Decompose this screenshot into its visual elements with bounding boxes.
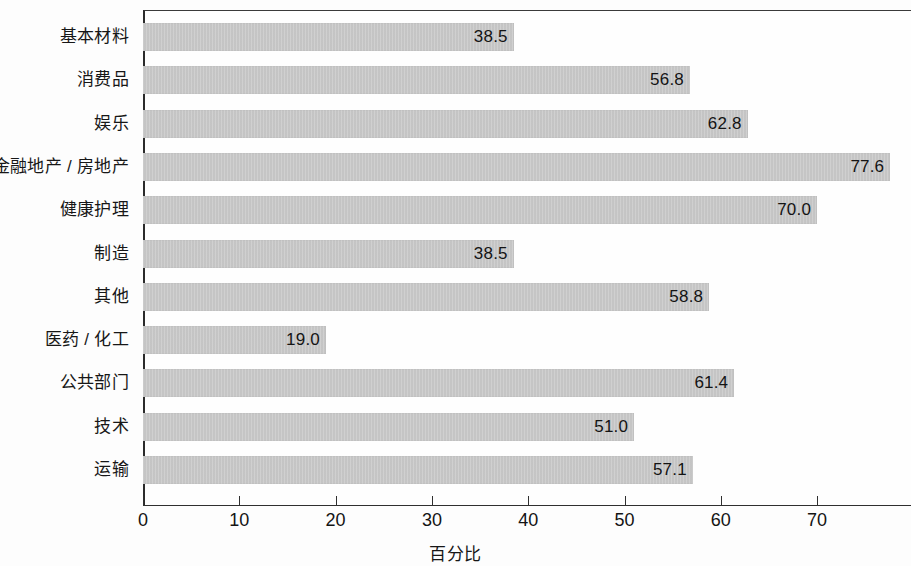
- bar-value-label: 77.6: [840, 153, 884, 181]
- x-axis-line: [143, 505, 911, 506]
- bar-value-label: 61.4: [684, 369, 728, 397]
- bar-value-label: 62.8: [698, 110, 742, 138]
- x-axis-tick: [143, 496, 144, 505]
- bar-value-label: 70.0: [767, 196, 811, 224]
- x-axis-tick-label: 70: [807, 510, 827, 531]
- x-axis-tick-label: 60: [711, 510, 731, 531]
- y-axis-category-label: 公共部门: [60, 369, 129, 397]
- bar-row: 70.0: [143, 196, 911, 224]
- x-axis-tick: [432, 496, 433, 505]
- bar: [143, 413, 634, 441]
- bar-row: 62.8: [143, 110, 911, 138]
- bar: [143, 283, 709, 311]
- x-axis-tick: [721, 496, 722, 505]
- bar: [143, 240, 514, 268]
- y-axis-category-label: 制造: [94, 240, 129, 268]
- y-axis-category-label: 消费品: [77, 66, 129, 94]
- bar: [143, 456, 693, 484]
- y-axis-category-label: 娱乐: [94, 110, 129, 138]
- y-axis-category-labels: 基本材料消费品娱乐金融地产 / 房地产健康护理制造其他医药 / 化工公共部门技术…: [0, 10, 136, 505]
- x-axis-tick: [528, 496, 529, 505]
- bar-value-label: 58.8: [659, 283, 703, 311]
- bar-row: 56.8: [143, 66, 911, 94]
- bar-value-label: 38.5: [464, 23, 508, 51]
- x-axis-tick-label: 20: [326, 510, 346, 531]
- x-axis-tick-label: 30: [422, 510, 442, 531]
- bar: [143, 23, 514, 51]
- bar: [143, 110, 748, 138]
- x-axis-tick: [239, 496, 240, 505]
- bar-row: 19.0: [143, 326, 911, 354]
- y-axis-category-label: 医药 / 化工: [45, 326, 129, 354]
- bar-row: 61.4: [143, 369, 911, 397]
- y-axis-category-label: 金融地产 / 房地产: [0, 153, 129, 181]
- bar-row: 57.1: [143, 456, 911, 484]
- bar-row: 58.8: [143, 283, 911, 311]
- bar-row: 38.5: [143, 240, 911, 268]
- bar-series: 38.556.862.877.670.038.558.819.061.451.0…: [143, 10, 911, 505]
- y-axis-category-label: 技术: [94, 413, 129, 441]
- bar-value-label: 19.0: [276, 326, 320, 354]
- bar-value-label: 56.8: [640, 66, 684, 94]
- x-axis-tick: [625, 496, 626, 505]
- x-axis-tick-label: 0: [138, 510, 148, 531]
- y-axis-category-label: 基本材料: [60, 23, 129, 51]
- bar-value-label: 38.5: [464, 240, 508, 268]
- x-axis-tick: [336, 496, 337, 505]
- y-axis-category-label: 其他: [94, 283, 129, 311]
- bar-row: 51.0: [143, 413, 911, 441]
- bar: [143, 153, 890, 181]
- bar-value-label: 51.0: [584, 413, 628, 441]
- bar: [143, 66, 690, 94]
- bar-chart: 基本材料消费品娱乐金融地产 / 房地产健康护理制造其他医药 / 化工公共部门技术…: [0, 0, 911, 566]
- y-axis-category-label: 运输: [94, 456, 129, 484]
- x-axis-tick: [817, 496, 818, 505]
- bar-row: 77.6: [143, 153, 911, 181]
- bar: [143, 369, 734, 397]
- y-axis-category-label: 健康护理: [60, 196, 129, 224]
- x-axis-title-text: 百分比: [429, 540, 482, 565]
- bar: [143, 196, 817, 224]
- x-axis-tick-label: 40: [518, 510, 538, 531]
- x-axis-tick-label: 50: [614, 510, 634, 531]
- x-axis-title: 百分比: [0, 540, 911, 565]
- bar-value-label: 57.1: [643, 456, 687, 484]
- x-axis-tick-label: 10: [229, 510, 249, 531]
- bar-row: 38.5: [143, 23, 911, 51]
